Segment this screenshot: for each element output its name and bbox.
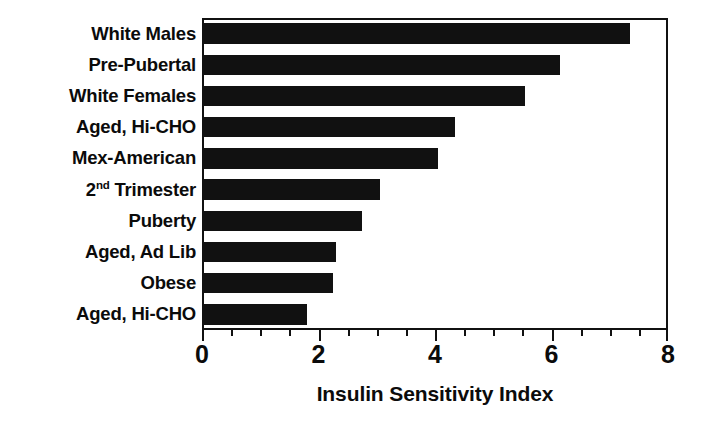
category-label-text: 2 bbox=[86, 179, 96, 200]
bar bbox=[202, 273, 333, 294]
x-axis-minor-tick bbox=[260, 330, 262, 336]
x-axis-tick-label: 2 bbox=[312, 341, 326, 367]
x-axis-minor-tick bbox=[493, 330, 495, 336]
category-label: Puberty bbox=[0, 212, 196, 231]
category-label: Pre-Pubertal bbox=[0, 56, 196, 75]
bar bbox=[202, 179, 380, 200]
category-label: 2nd Trimester bbox=[0, 181, 196, 200]
x-axis-minor-tick bbox=[231, 330, 233, 336]
category-label: White Males bbox=[0, 25, 196, 44]
category-label: Aged, Ad Lib bbox=[0, 243, 196, 262]
x-axis-minor-tick bbox=[522, 330, 524, 336]
x-axis-minor-tick bbox=[639, 330, 641, 336]
ordinal-superscript: nd bbox=[96, 178, 110, 190]
x-axis-minor-tick bbox=[406, 330, 408, 336]
bar bbox=[202, 148, 438, 169]
x-axis-minor-tick bbox=[348, 330, 350, 336]
x-axis-title: Insulin Sensitivity Index bbox=[202, 382, 668, 406]
bar bbox=[202, 86, 525, 107]
x-axis-tick-label: 8 bbox=[661, 341, 675, 367]
bar bbox=[202, 304, 307, 325]
bar bbox=[202, 211, 362, 232]
category-label-text: Trimester bbox=[110, 179, 196, 200]
category-label: Aged, Hi-CHO bbox=[0, 118, 196, 137]
x-axis-tick-label: 4 bbox=[428, 341, 442, 367]
bars-layer bbox=[202, 18, 668, 330]
x-axis-minor-tick bbox=[377, 330, 379, 336]
category-axis-labels: White MalesPre-PubertalWhite FemalesAged… bbox=[0, 18, 196, 330]
x-axis-tick-label: 6 bbox=[545, 341, 559, 367]
x-axis-tick-labels: 02468 bbox=[202, 341, 668, 375]
category-label: Obese bbox=[0, 274, 196, 293]
x-axis-minor-tick bbox=[610, 330, 612, 336]
category-label: Aged, Hi-CHO bbox=[0, 305, 196, 324]
bar bbox=[202, 242, 336, 263]
x-axis-tick-label: 0 bbox=[195, 341, 209, 367]
bar bbox=[202, 23, 630, 44]
bar bbox=[202, 55, 560, 76]
x-axis-minor-tick bbox=[289, 330, 291, 336]
category-label: White Females bbox=[0, 87, 196, 106]
bar-chart: White MalesPre-PubertalWhite FemalesAged… bbox=[0, 0, 710, 432]
x-axis-minor-tick bbox=[464, 330, 466, 336]
x-axis-minor-tick bbox=[581, 330, 583, 336]
category-label: Mex-American bbox=[0, 149, 196, 168]
bar bbox=[202, 117, 455, 138]
